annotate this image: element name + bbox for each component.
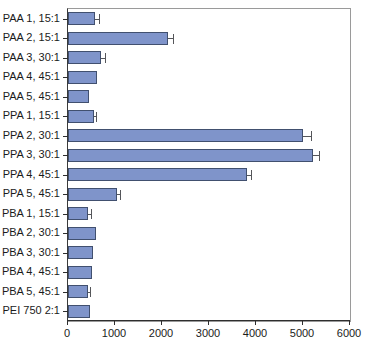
x-axis-tick-label: 6000	[337, 327, 361, 339]
category-label: PPA 4, 45:1	[3, 167, 60, 181]
bar-row	[68, 165, 350, 185]
x-axis-tick	[161, 320, 162, 325]
bar-row	[68, 29, 350, 49]
bar	[68, 305, 90, 318]
x-axis-tick	[67, 320, 68, 325]
x-axis-tick-label: 3000	[196, 327, 220, 339]
bar	[68, 129, 303, 142]
bar-row	[68, 107, 350, 127]
x-axis-tick-label: 0	[64, 327, 70, 339]
x-axis-tick	[114, 320, 115, 325]
category-label: PAA 4, 45:1	[3, 69, 60, 83]
error-bar-cap	[99, 14, 100, 24]
error-bar-cap	[251, 170, 252, 180]
x-axis: 0100020003000400050006000	[67, 320, 350, 348]
x-axis-tick-label: 4000	[243, 327, 267, 339]
category-label: PPA 2, 30:1	[3, 128, 60, 142]
bar	[68, 149, 313, 162]
bar-row	[68, 185, 350, 205]
bar	[68, 246, 93, 259]
category-label: PBA 1, 15:1	[2, 206, 60, 220]
x-axis-tick	[302, 320, 303, 325]
bar-row	[68, 48, 350, 68]
bar	[68, 266, 92, 279]
category-label: PBA 4, 45:1	[2, 264, 60, 278]
error-bar-cap	[90, 287, 91, 297]
error-bar-cap	[319, 151, 320, 161]
x-axis-tick-label: 2000	[149, 327, 173, 339]
bar	[68, 90, 89, 103]
error-bar-cap	[120, 190, 121, 200]
bar-row	[68, 204, 350, 224]
bar	[68, 12, 95, 25]
error-bar-cap	[311, 131, 312, 141]
bar-row	[68, 126, 350, 146]
bar	[68, 110, 94, 123]
bars-container	[68, 9, 350, 321]
bar	[68, 227, 96, 240]
x-axis-tick	[255, 320, 256, 325]
bar-row	[68, 263, 350, 283]
bar-row	[68, 68, 350, 88]
bar	[68, 168, 247, 181]
bar	[68, 188, 117, 201]
category-label: PBA 3, 30:1	[2, 245, 60, 259]
x-axis-tick	[208, 320, 209, 325]
bar-row	[68, 282, 350, 302]
category-label: PAA 3, 30:1	[3, 50, 60, 64]
error-bar-line	[303, 136, 311, 137]
category-label: PBA 5, 45:1	[2, 284, 60, 298]
bar	[68, 32, 168, 45]
x-axis-tick-label: 1000	[102, 327, 126, 339]
category-label: PPA 1, 15:1	[3, 108, 60, 122]
error-bar-cap	[91, 209, 92, 219]
bar-row	[68, 243, 350, 263]
error-bar-cap	[173, 34, 174, 44]
category-label: PAA 1, 15:1	[3, 11, 60, 25]
category-label: PAA 2, 15:1	[3, 30, 60, 44]
x-axis-tick	[349, 320, 350, 325]
bar	[68, 285, 88, 298]
category-axis-labels: PAA 1, 15:1PAA 2, 15:1PAA 3, 30:1PAA 4, …	[0, 8, 63, 320]
bar-row	[68, 146, 350, 166]
category-label: PBA 2, 30:1	[2, 225, 60, 239]
bar-chart: PAA 1, 15:1PAA 2, 15:1PAA 3, 30:1PAA 4, …	[0, 0, 367, 348]
bar-row	[68, 9, 350, 29]
category-label: PPA 5, 45:1	[3, 186, 60, 200]
error-bar-cap	[105, 53, 106, 63]
category-label: PEI 750 2:1	[3, 303, 61, 317]
bar	[68, 51, 101, 64]
category-label: PAA 5, 45:1	[3, 89, 60, 103]
bar-row	[68, 224, 350, 244]
category-label: PPA 3, 30:1	[3, 147, 60, 161]
x-axis-tick-label: 5000	[290, 327, 314, 339]
error-bar-cap	[96, 112, 97, 122]
bar	[68, 71, 97, 84]
plot-area	[67, 8, 351, 322]
bar	[68, 207, 88, 220]
bar-row	[68, 87, 350, 107]
bar-row	[68, 302, 350, 322]
